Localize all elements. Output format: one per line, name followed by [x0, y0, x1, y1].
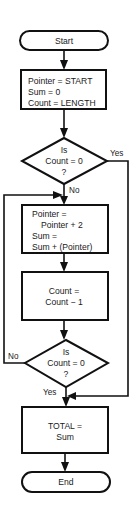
- total-line-1: TOTAL =: [48, 421, 82, 431]
- loop-body-line-4: Sum + (Pointer): [32, 242, 93, 252]
- init-line-2: Sum = 0: [28, 87, 60, 97]
- decision2-line-1: Is: [63, 347, 70, 357]
- arrow-down-icon: [60, 196, 68, 205]
- decision1-no-label: No: [69, 186, 80, 195]
- decision1-yes-label: Yes: [110, 149, 123, 158]
- init-line-3: Count = LENGTH: [28, 98, 96, 108]
- loop-body-line-1: Pointer =: [32, 209, 67, 219]
- decision2-no-label: No: [8, 352, 19, 361]
- connector-start-init: [60, 50, 68, 70]
- start-label: Start: [55, 36, 74, 46]
- connector-decrement-decision2: [60, 320, 68, 340]
- arrow-down-icon: [61, 462, 69, 472]
- decrement-line-1: Count =: [49, 286, 79, 296]
- decision-1-diamond: Is Count = 0 ?: [22, 138, 107, 184]
- decision2-line-3: ?: [64, 369, 69, 379]
- total-process-box: TOTAL = Sum: [22, 407, 108, 453]
- decrement-line-2: Count − 1: [45, 297, 83, 307]
- init-process-box: Pointer = START Sum = 0 Count = LENGTH: [21, 70, 106, 109]
- decision2-line-2: Count = 0: [47, 358, 85, 368]
- decision1-line-1: Is: [61, 145, 68, 155]
- decision2-yes-label: Yes: [43, 388, 56, 397]
- arrow-down-icon: [60, 128, 68, 138]
- end-terminal: End: [22, 472, 110, 492]
- loop-body-line-3: Sum =: [32, 231, 57, 241]
- decision1-line-2: Count = 0: [45, 156, 83, 166]
- end-label: End: [58, 477, 74, 487]
- start-terminal: Start: [20, 31, 108, 50]
- connector-body-decrement: [60, 253, 68, 272]
- total-line-2: Sum: [56, 432, 74, 442]
- decision1-line-3: ?: [62, 167, 67, 177]
- arrow-down-icon: [60, 60, 68, 70]
- decrement-process-box: Count = Count − 1: [22, 272, 108, 320]
- loop-body-line-2: Pointer + 2: [41, 220, 83, 230]
- init-line-1: Pointer = START: [28, 76, 93, 86]
- loop-body-process-box: Pointer = Pointer + 2 Sum = Sum + (Point…: [22, 205, 108, 253]
- decision-2-diamond: Is Count = 0 ?: [25, 340, 108, 387]
- connector-decision2-yes: [62, 387, 70, 407]
- connector-init-decision1: [60, 109, 68, 138]
- arrow-down-icon: [60, 330, 68, 340]
- arrow-down-icon: [60, 262, 68, 272]
- arrow-down-icon: [62, 397, 70, 407]
- flowchart: Start Pointer = START Sum = 0 Count = LE…: [0, 0, 134, 520]
- connector-total-end: [61, 453, 69, 472]
